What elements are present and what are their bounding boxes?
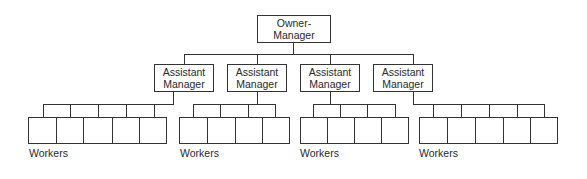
group-1-drop xyxy=(126,104,127,117)
worker-box xyxy=(419,117,448,144)
assistant-manager-box-2: Assistant Manager xyxy=(227,64,287,92)
assistant-4-drop xyxy=(413,54,414,64)
worker-box xyxy=(112,117,140,144)
group-4-drop xyxy=(517,104,518,117)
assistant-manager-box-1: Assistant Manager xyxy=(154,64,214,92)
group-1-drop xyxy=(154,104,155,117)
owner-manager-label-line1: Owner- xyxy=(277,17,311,29)
worker-box xyxy=(354,117,382,144)
worker-box xyxy=(235,117,263,144)
group-4-drop xyxy=(489,104,490,117)
group-3-drop xyxy=(367,104,368,117)
assistant-manager-box-3: Assistant Manager xyxy=(300,64,360,92)
group-1-drop xyxy=(43,104,44,117)
workers-label-4: Workers xyxy=(419,147,458,159)
worker-box xyxy=(530,117,558,144)
group-3-drop xyxy=(340,104,341,117)
assistant-manager-label-line2: Manager xyxy=(236,78,277,90)
worker-box xyxy=(447,117,476,144)
group-1-drop xyxy=(98,104,99,117)
assistant-manager-label-line1: Assistant xyxy=(163,66,206,78)
owner-stem xyxy=(293,43,294,54)
worker-box xyxy=(179,117,208,144)
assistant-manager-label-line2: Manager xyxy=(382,78,423,90)
assistant-3-drop xyxy=(330,54,331,64)
worker-box xyxy=(475,117,504,144)
group-2-drop xyxy=(220,104,221,117)
worker-box xyxy=(503,117,531,144)
group-4-drop xyxy=(433,104,434,117)
group-2-drop xyxy=(275,104,276,117)
assistant-manager-label-line1: Assistant xyxy=(309,66,352,78)
assistant-manager-box-4: Assistant Manager xyxy=(373,64,433,92)
owner-manager-box: Owner- Manager xyxy=(257,15,331,43)
group-2-connector xyxy=(193,104,275,105)
worker-box xyxy=(28,117,57,144)
workers-label-1: Workers xyxy=(29,147,68,159)
assistant-1-drop xyxy=(184,54,185,64)
worker-box xyxy=(83,117,113,144)
assistant-manager-label-line1: Assistant xyxy=(382,66,425,78)
workers-label-3: Workers xyxy=(300,147,339,159)
group-3-drop xyxy=(313,104,314,117)
group-1-drop xyxy=(70,104,71,117)
assistant-2-drop xyxy=(257,54,258,64)
group-2-drop xyxy=(248,104,249,117)
group-3-drop xyxy=(395,104,396,117)
worker-box xyxy=(56,117,84,144)
worker-box xyxy=(207,117,236,144)
assistant-manager-label-line2: Manager xyxy=(163,78,204,90)
worker-box xyxy=(381,117,409,144)
worker-box xyxy=(327,117,355,144)
assistant-connector-bar xyxy=(184,54,414,55)
assistant-manager-label-line2: Manager xyxy=(309,78,350,90)
worker-box xyxy=(300,117,328,144)
owner-manager-label-line2: Manager xyxy=(273,29,314,41)
assistant-manager-label-line1: Assistant xyxy=(236,66,279,78)
group-4-drop xyxy=(544,104,545,117)
group-4-drop xyxy=(461,104,462,117)
worker-box xyxy=(139,117,167,144)
worker-box xyxy=(262,117,290,144)
workers-label-2: Workers xyxy=(180,147,219,159)
group-3-connector xyxy=(313,104,396,105)
group-2-drop xyxy=(193,104,194,117)
